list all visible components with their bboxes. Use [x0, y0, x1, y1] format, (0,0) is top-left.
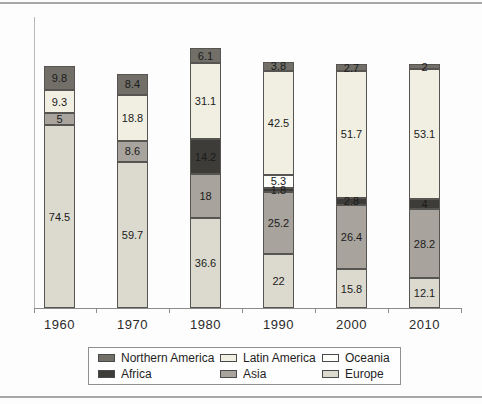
legend-item-asia: Asia: [220, 367, 322, 381]
segment-value-latin-america-1960: 9.3: [52, 96, 67, 107]
x-tick-label-1980: 1980: [190, 317, 221, 332]
segment-value-asia-2010: 28.2: [414, 238, 435, 249]
legend-label-europe: Europe: [345, 367, 384, 381]
plot-area: 19601970198019902000201074.559.39.859.78…: [0, 0, 482, 404]
x-tick-label-2010: 2010: [409, 317, 440, 332]
x-axis-tick-1: [96, 309, 97, 313]
segment-value-africa-2000: 2.8: [344, 196, 359, 207]
x-axis-tick-4: [315, 309, 316, 313]
segment-value-oceania-1990: 5.3: [271, 176, 286, 187]
legend-swatch-oceania: [322, 354, 339, 362]
x-axis-tick-2: [169, 309, 170, 313]
legend-label-oceania: Oceania: [345, 351, 390, 365]
legend-item-europe: Europe: [322, 367, 402, 381]
x-tick-label-1960: 1960: [44, 317, 75, 332]
segment-value-latin-america-2000: 51.7: [341, 129, 362, 140]
x-axis-tick-5: [388, 309, 389, 313]
segment-value-europe-1990: 22: [272, 276, 284, 287]
legend-item-oceania: Oceania: [322, 351, 402, 365]
segment-value-latin-america-1990: 42.5: [268, 117, 289, 128]
x-axis-tick-3: [242, 309, 243, 313]
legend-label-asia: Asia: [243, 367, 266, 381]
segment-value-latin-america-1980: 31.1: [195, 96, 216, 107]
x-axis-tick-6: [461, 309, 462, 313]
segment-value-europe-1980: 36.6: [195, 258, 216, 269]
legend-swatch-europe: [322, 370, 339, 378]
segment-value-asia-1990: 25.2: [268, 218, 289, 229]
segment-value-northern-america-1990: 3.8: [271, 61, 286, 72]
segment-value-asia-1970: 8.6: [125, 146, 140, 157]
segment-value-europe-1970: 59.7: [122, 229, 143, 240]
x-axis-tick-0: [34, 309, 35, 313]
figure: 19601970198019902000201074.559.39.859.78…: [0, 0, 482, 404]
legend-swatch-africa: [98, 370, 115, 378]
legend-box: Northern AmericaLatin AmericaOceaniaAfri…: [88, 347, 401, 385]
segment-value-africa-1980: 14.2: [195, 151, 216, 162]
legend-label-africa: Africa: [121, 367, 152, 381]
legend-swatch-latin-america: [220, 354, 237, 362]
legend-item-northern-america: Northern America: [98, 351, 220, 365]
segment-value-northern-america-1970: 8.4: [125, 79, 140, 90]
segment-value-asia-1960: 5: [56, 114, 62, 125]
segment-value-africa-2010: 4: [421, 199, 427, 210]
segment-value-europe-2010: 12.1: [414, 288, 435, 299]
segment-value-asia-2000: 26.4: [341, 231, 362, 242]
segment-value-northern-america-1960: 9.8: [52, 73, 67, 84]
y-axis-line: [34, 17, 35, 308]
legend-label-northern-america: Northern America: [121, 351, 214, 365]
legend-label-latin-america: Latin America: [243, 351, 316, 365]
legend-item-africa: Africa: [98, 367, 220, 381]
x-axis-line: [34, 308, 462, 309]
legend-swatch-asia: [220, 370, 237, 378]
segment-value-europe-1960: 74.5: [49, 211, 70, 222]
segment-value-asia-1980: 18: [199, 191, 211, 202]
segment-value-latin-america-2010: 53.1: [414, 129, 435, 140]
legend-swatch-northern-america: [98, 354, 115, 362]
x-tick-label-2000: 2000: [336, 317, 367, 332]
segment-value-latin-america-1970: 18.8: [122, 112, 143, 123]
segment-value-europe-2000: 15.8: [341, 283, 362, 294]
x-tick-label-1970: 1970: [117, 317, 148, 332]
legend-item-latin-america: Latin America: [220, 351, 322, 365]
segment-value-northern-america-2000: 2.7: [344, 62, 359, 73]
segment-value-northern-america-1980: 6.1: [198, 50, 213, 61]
x-tick-label-1990: 1990: [263, 317, 294, 332]
segment-value-northern-america-2010: 2: [421, 61, 427, 72]
